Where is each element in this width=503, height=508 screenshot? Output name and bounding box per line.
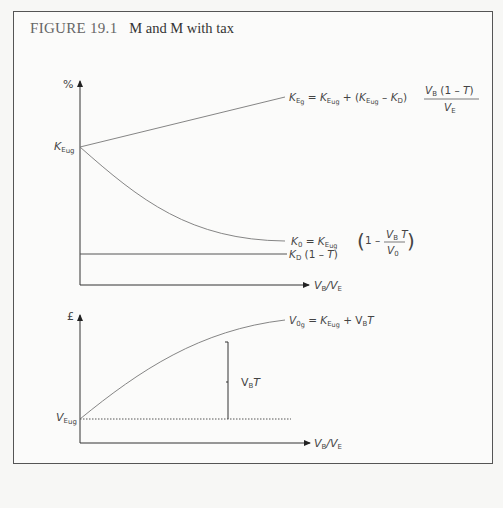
top-chart: % VB/VE KEug KEg = KEug + (KEug – KD) VB… (54, 78, 479, 293)
k0-fraction-denominator: V0 (387, 244, 399, 258)
top-y-axis-label: % (63, 78, 73, 91)
bottom-origin-label: VEug (56, 411, 77, 426)
k0-paren-right: ) (407, 229, 415, 253)
k0-one-minus: 1 – (365, 234, 380, 246)
vbt-label: VBT (241, 376, 261, 390)
keg-line (80, 97, 285, 147)
bottom-y-axis-label: £ (67, 310, 74, 323)
k0-curve (80, 147, 285, 241)
figure-diagram: % VB/VE KEug KEg = KEug + (KEug – KD) VB… (0, 0, 503, 508)
bottom-chart: £ VB/VE VEug VBT V0g = KEug + VBT (56, 310, 375, 451)
keg-fraction-denominator: VE (444, 101, 456, 115)
v0g-curve (80, 320, 285, 419)
kd-label: KD (1 – T) (289, 248, 338, 262)
top-origin-label: KEug (54, 140, 75, 155)
v0g-label: V0g = KEug + VBT (289, 314, 375, 329)
bottom-x-axis-label: VB/VE (314, 437, 342, 451)
k0-fraction-numerator: VB T (386, 228, 409, 242)
top-x-axis-label: VB/VE (314, 279, 342, 293)
keg-label: KEg = KEug + (KEug – KD) (289, 91, 407, 106)
keg-fraction-numerator: VB (1 – T) (425, 84, 474, 98)
k0-paren-left: ( (357, 229, 365, 253)
